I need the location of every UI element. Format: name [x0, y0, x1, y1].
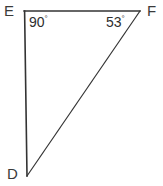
vertex-label-d: D [7, 166, 18, 181]
geometry-figure: E F D 90° 53° [0, 0, 163, 186]
angle-measure-e: 90° [29, 15, 48, 29]
degree-symbol-icon: ° [45, 14, 48, 23]
vertex-label-f: F [147, 3, 156, 18]
vertex-label-e: E [4, 3, 14, 18]
triangle-shape [0, 0, 163, 186]
degree-symbol-icon: ° [122, 14, 125, 23]
angle-measure-f: 53° [106, 15, 125, 29]
angle-e-value: 90 [29, 14, 45, 30]
angle-f-value: 53 [106, 14, 122, 30]
side-ED [25, 11, 27, 176]
side-DF [27, 11, 140, 176]
